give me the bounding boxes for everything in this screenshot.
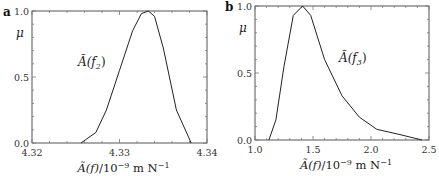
plot-frame bbox=[255, 6, 429, 140]
y-tick-label: 0.0 bbox=[14, 138, 29, 149]
y-tick-label: 0.5 bbox=[237, 68, 252, 79]
plot-frame bbox=[32, 11, 207, 143]
curve-annotation: Ã(f3) bbox=[338, 50, 367, 67]
panel-label: b bbox=[225, 0, 233, 14]
y-axis-label: μ bbox=[239, 21, 247, 35]
y-axis-label: μ bbox=[16, 26, 24, 40]
x-axis-label: Ã(f)/10−9 m N−1 bbox=[299, 158, 392, 172]
membership-curve bbox=[81, 11, 191, 143]
x-tick-label: 2.0 bbox=[363, 144, 378, 155]
chart-panel-a: 4.324.334.340.00.51.0aμÃ(f)/10−9 m N−1Ã(… bbox=[3, 5, 218, 175]
chart-panel-b: 1.01.52.02.50.00.51.0bμÃ(f)/10−9 m N−1Ã(… bbox=[225, 0, 437, 172]
figure: 4.324.334.340.00.51.0aμÃ(f)/10−9 m N−1Ã(… bbox=[0, 0, 439, 176]
y-tick-label: 1.0 bbox=[14, 6, 29, 17]
x-tick-label: 1.0 bbox=[247, 144, 262, 155]
x-tick-label: 4.32 bbox=[21, 147, 42, 158]
curve-annotation: Ã(f2) bbox=[77, 54, 106, 71]
x-tick-label: 4.33 bbox=[109, 147, 130, 158]
x-tick-label: 1.5 bbox=[305, 144, 320, 155]
membership-curve bbox=[269, 6, 422, 140]
y-tick-label: 0.5 bbox=[14, 72, 29, 83]
y-tick-label: 0.0 bbox=[237, 135, 252, 146]
x-tick-label: 4.34 bbox=[196, 147, 217, 158]
x-tick-label: 2.5 bbox=[421, 144, 436, 155]
y-tick-label: 1.0 bbox=[237, 1, 252, 12]
panel-label: a bbox=[3, 5, 11, 19]
x-axis-label: Ã(f)/10−9 m N−1 bbox=[77, 161, 170, 175]
